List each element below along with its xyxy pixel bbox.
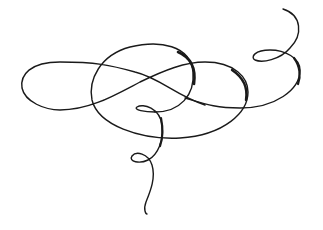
swirl-flourish-icon [0, 0, 323, 230]
tail-accent [160, 118, 162, 146]
right-sweep-stroke [185, 9, 300, 108]
right-curl-accent [294, 58, 300, 84]
right-loop-accent [232, 70, 246, 100]
center-loop-accent [178, 52, 194, 84]
flourish-artwork: Decorative calligraphic swirl flourish [0, 0, 323, 230]
left-loop-stroke [22, 44, 248, 138]
tail-stroke [131, 106, 162, 214]
